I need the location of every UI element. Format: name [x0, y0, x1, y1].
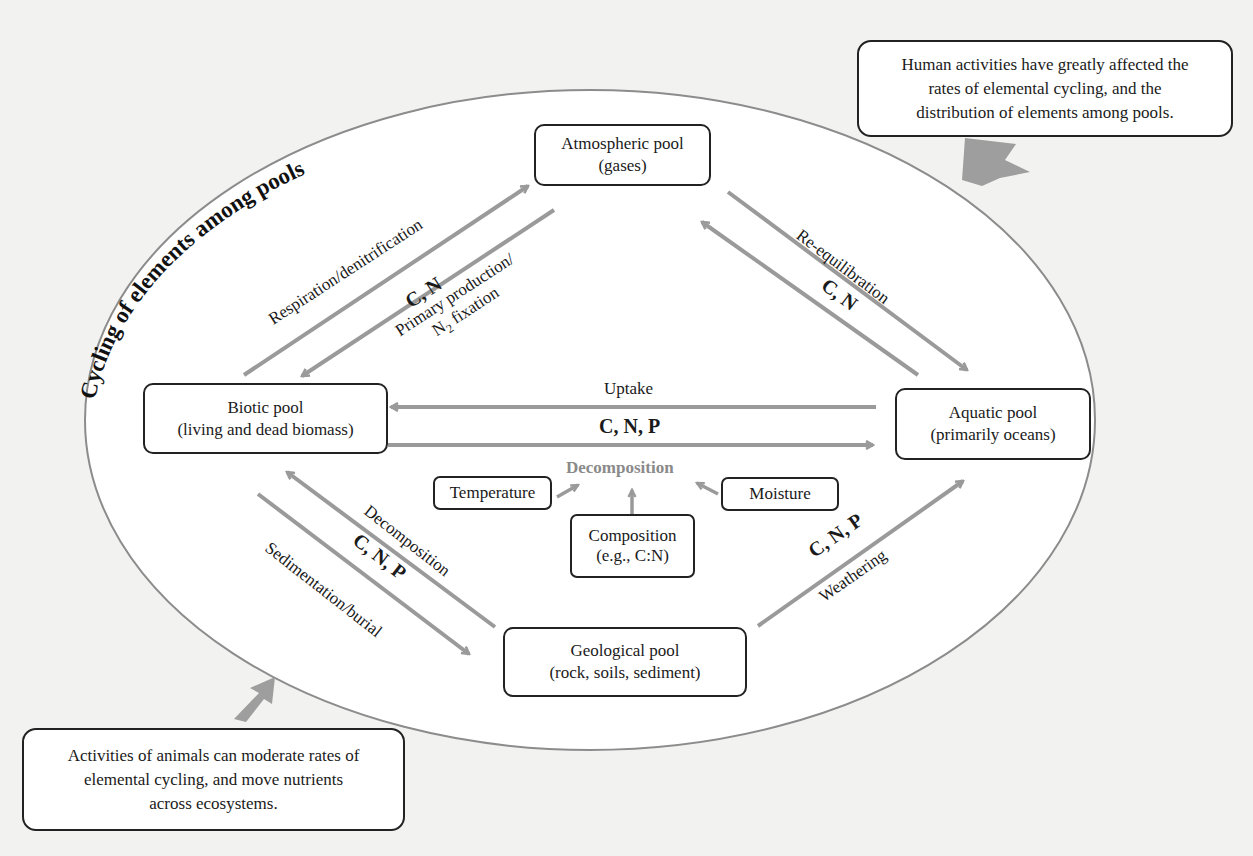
block-arrow-down-left-icon — [962, 138, 1030, 186]
moisture-label: Moisture — [749, 484, 810, 504]
moisture-box: Moisture — [721, 477, 839, 511]
decomposition-factor-label: Decomposition — [566, 458, 674, 478]
uptake-label: Uptake — [604, 379, 653, 399]
human-activities-callout: Human activities have greatly affected t… — [857, 40, 1233, 137]
aquatic-pool-box: Aquatic pool (primarily oceans) — [895, 388, 1091, 460]
human-callout-line2: rates of elemental cycling, and the — [928, 77, 1161, 101]
temperature-label: Temperature — [450, 483, 536, 503]
composition-example: (e.g., C:N) — [596, 546, 669, 566]
biotic-pool-detail: (living and dead biomass) — [177, 419, 353, 441]
block-arrow-up-right-icon — [234, 677, 275, 722]
geological-pool-name: Geological pool — [570, 640, 679, 662]
composition-label: Composition — [589, 526, 677, 546]
atmospheric-pool-box: Atmospheric pool (gases) — [534, 124, 711, 186]
biotic-pool-box: Biotic pool (living and dead biomass) — [143, 383, 388, 454]
animals-callout-line1: Activities of animals can moderate rates… — [68, 744, 360, 768]
composition-box: Composition (e.g., C:N) — [570, 514, 695, 578]
animals-callout-line2: elemental cycling, and move nutrients — [84, 768, 343, 792]
atmospheric-pool-name: Atmospheric pool — [561, 133, 683, 155]
animals-callout-line3: across ecosystems. — [149, 792, 277, 816]
human-callout-line1: Human activities have greatly affected t… — [901, 53, 1188, 77]
animal-activities-callout: Activities of animals can moderate rates… — [22, 728, 405, 831]
geological-pool-detail: (rock, soils, sediment) — [549, 662, 700, 684]
human-callout-line3: distribution of elements among pools. — [916, 101, 1173, 125]
biotic-aquatic-elements: C, N, P — [599, 415, 660, 438]
atmospheric-pool-detail: (gases) — [598, 155, 646, 177]
aquatic-pool-detail: (primarily oceans) — [930, 424, 1055, 446]
aquatic-pool-name: Aquatic pool — [949, 402, 1037, 424]
temperature-box: Temperature — [433, 476, 552, 510]
biotic-pool-name: Biotic pool — [227, 397, 303, 419]
geological-pool-box: Geological pool (rock, soils, sediment) — [503, 627, 747, 697]
